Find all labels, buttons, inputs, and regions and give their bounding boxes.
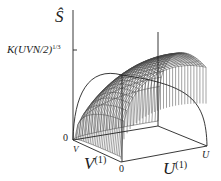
v-axis-label: V(1) xyxy=(84,155,106,172)
mesh-line xyxy=(104,54,189,149)
axes-frame xyxy=(73,10,207,162)
u-origin-label: 0 xyxy=(119,164,124,174)
u-axis-label: U(1) xyxy=(163,160,187,177)
mesh-line xyxy=(102,54,187,149)
u-end-label: U xyxy=(202,150,209,160)
back-right-edge xyxy=(158,126,207,146)
max-value-tick-label: K(UVN/2)1/3 xyxy=(7,44,61,55)
vertical-origin-label: 0 xyxy=(63,133,68,143)
v-end-label: V xyxy=(73,145,79,154)
mesh-line xyxy=(76,77,161,139)
surface-plot-svg xyxy=(0,0,221,181)
surface-mesh xyxy=(73,53,206,159)
s-hat-axis-label: Ŝ xyxy=(55,8,64,25)
surface-plot-figure: Ŝ K(UVN/2)1/3 0 V V(1) 0 U(1) U xyxy=(0,0,221,181)
